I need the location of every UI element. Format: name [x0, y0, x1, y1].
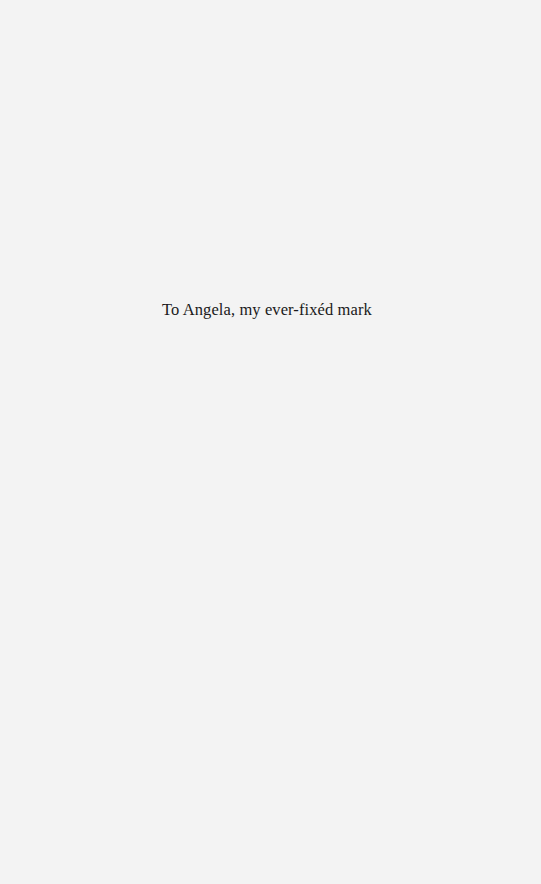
- dedication-page: To Angela, my ever-fixéd mark: [0, 0, 541, 884]
- dedication-text: To Angela, my ever-fixéd mark: [162, 300, 372, 320]
